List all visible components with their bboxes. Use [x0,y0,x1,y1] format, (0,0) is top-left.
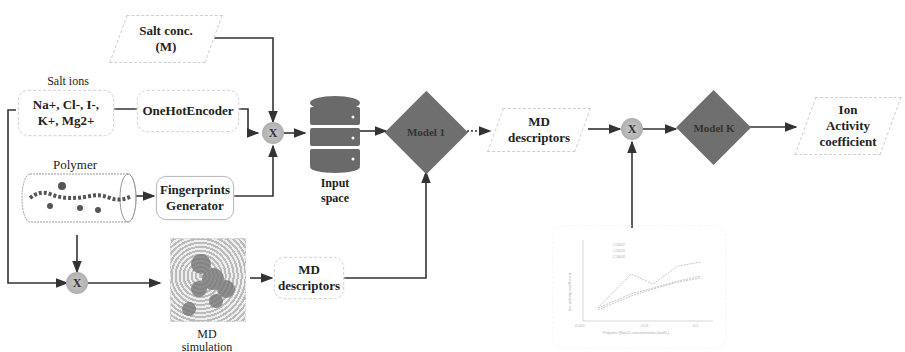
combine-node-3: X [66,272,88,294]
md-simulation-label: MDsimulation [170,328,244,352]
svg-text:C2003: C2003 [613,248,626,253]
inset-chart: C2002 C2003 C2003 0.001 0.01 0.1 Polymer… [552,225,726,349]
salt-conc-label: Salt conc.(M) [139,23,192,55]
model-1-diamond: Model 1 [384,90,468,174]
salt-ions-box: Na+, Cl-, I-,K+, Mg2+ [18,90,114,136]
svg-text:Ion activity coefficient: Ion activity coefficient [567,272,572,311]
database-icon [309,95,361,173]
salt-ions-title: Salt ions [28,74,108,89]
salt-conc-input: Salt conc.(M) [118,15,214,63]
md-descriptors-box: MDdescriptors [274,257,344,299]
svg-text:0.001: 0.001 [575,323,586,328]
input-space-label: Inputspace [305,176,365,206]
ion-activity-output: IonActivitycoefficient [805,97,891,155]
model-k-diamond: Model K [676,90,752,166]
svg-text:C2003: C2003 [613,254,626,259]
svg-text:0.1: 0.1 [693,323,699,328]
onehot-encoder-box: OneHotEncoder [137,90,239,132]
fingerprints-generator-box: FingerprintsGenerator [156,176,234,220]
polymer-cylinder-icon [20,172,138,224]
svg-text:Polymer (NaCl) concentration (: Polymer (NaCl) concentration (mol/L) [603,330,670,335]
md-simulation-image [170,238,246,322]
combine-node-2: X [621,118,643,140]
combine-node-1: X [262,122,284,144]
svg-text:0.01: 0.01 [641,323,650,328]
svg-text:C2002: C2002 [613,242,626,247]
polymer-title: Polymer [45,157,105,173]
md-descriptors-output: MDdescriptors [495,108,583,152]
